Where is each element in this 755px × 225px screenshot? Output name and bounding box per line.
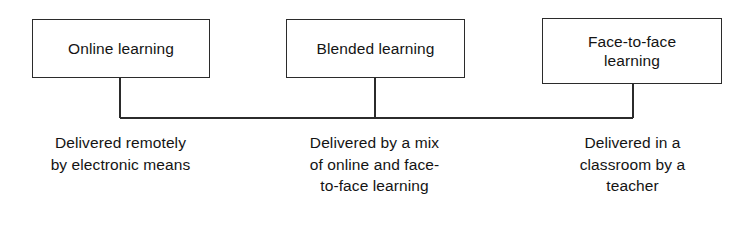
diagram-canvas: Online learning Blended learning Face-to… <box>0 0 755 225</box>
node-box-face-to-face-learning[interactable]: Face-to-face learning <box>542 18 722 84</box>
description-blended-learning: Delivered by a mix of online and face- t… <box>272 132 477 197</box>
node-label-online-learning: Online learning <box>62 39 180 58</box>
node-label-blended-learning: Blended learning <box>311 39 441 58</box>
node-box-blended-learning[interactable]: Blended learning <box>286 19 465 78</box>
node-box-online-learning[interactable]: Online learning <box>32 19 210 78</box>
description-online-learning: Delivered remotely by electronic means <box>18 132 223 175</box>
node-label-face-to-face-learning: Face-to-face learning <box>582 32 682 70</box>
description-face-to-face-learning: Delivered in a classroom by a teacher <box>530 132 735 197</box>
